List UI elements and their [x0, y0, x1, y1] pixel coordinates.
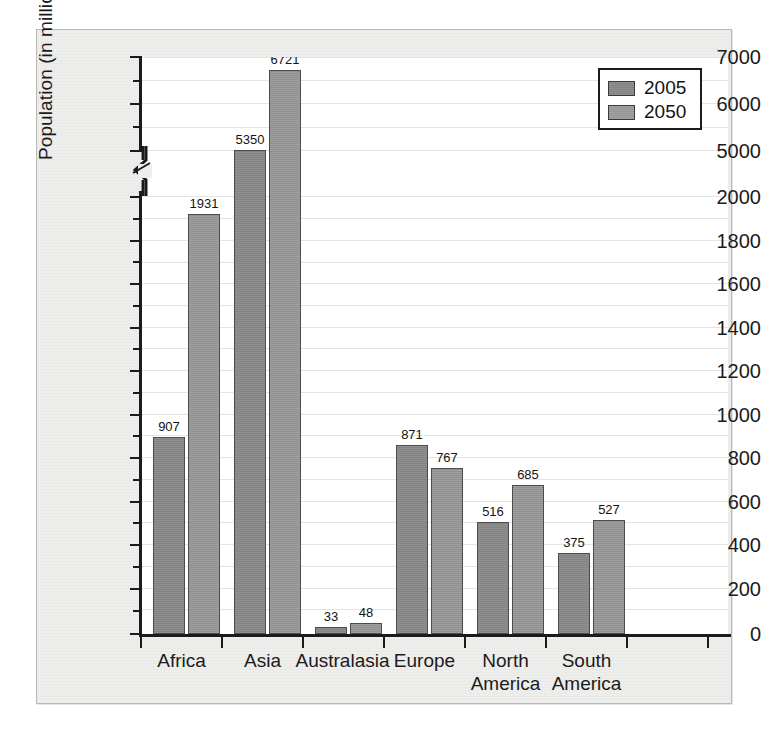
y-tick-7000	[130, 56, 142, 58]
y-tick-1900	[133, 218, 142, 220]
y-tick-label-200: 200	[669, 578, 761, 601]
x-category-label-south-america-line2: America	[546, 672, 627, 695]
bar-value-europe-2050: 767	[421, 450, 473, 465]
y-tick-1800	[130, 240, 142, 242]
x-category-label-australasia: Australasia	[295, 649, 390, 672]
bar-asia-2005[interactable]	[234, 150, 266, 634]
y-tick-label-600: 600	[669, 491, 761, 514]
x-category-label-europe-line1: Europe	[384, 649, 465, 672]
bar-value-asia-2050: 6721	[259, 57, 311, 67]
y-tick-100	[133, 610, 142, 612]
y-tick-label-1400: 1400	[669, 317, 761, 340]
bar-south-america-2005[interactable]	[558, 553, 590, 634]
x-category-label-australasia-line1: Australasia	[295, 649, 390, 672]
x-category-label-south-america-line1: South	[546, 649, 627, 672]
y-tick-1000	[130, 414, 142, 416]
y-tick-300	[133, 566, 142, 568]
x-category-label-north-america-line1: North	[465, 649, 546, 672]
x-axis-spine	[139, 634, 731, 637]
x-category-label-asia-line1: Asia	[222, 649, 303, 672]
gridline	[141, 348, 728, 349]
x-tick-boundary-7	[707, 637, 709, 648]
x-category-label-south-america: South America	[546, 649, 627, 695]
bar-value-europe-2005: 871	[386, 427, 438, 442]
x-category-label-europe: Europe	[384, 649, 465, 672]
y-tick-700	[133, 479, 142, 481]
y-tick-1500	[133, 305, 142, 307]
x-tick-boundary-5	[545, 637, 547, 648]
y-tick-label-1600: 1600	[669, 273, 761, 296]
bar-value-north-america-2050: 685	[502, 467, 554, 482]
chart-figure: Population (in millions) 907	[0, 0, 761, 731]
gridline	[141, 57, 728, 58]
gridline	[141, 283, 728, 284]
gridline	[141, 218, 728, 219]
x-category-label-africa-line1: Africa	[141, 649, 222, 672]
y-tick-1400	[130, 327, 142, 329]
gridline	[141, 240, 728, 241]
x-tick-boundary-6	[626, 637, 628, 648]
y-tick-500	[133, 522, 142, 524]
y-tick-label-6000: 6000	[669, 93, 761, 116]
y-tick-label-1000: 1000	[669, 404, 761, 427]
gridline	[141, 327, 728, 328]
y-tick-label-800: 800	[669, 447, 761, 470]
y-tick-1100	[133, 392, 142, 394]
y-tick-2000	[130, 196, 142, 198]
y-tick-800	[130, 457, 142, 459]
x-tick-boundary-3	[383, 637, 385, 648]
bar-asia-2050[interactable]	[269, 70, 301, 634]
x-tick-boundary-2	[302, 637, 304, 648]
bar-north-america-2005[interactable]	[477, 522, 509, 634]
y-tick-400	[130, 544, 142, 546]
bar-europe-2050[interactable]	[431, 468, 463, 634]
y-tick-5500	[133, 126, 142, 128]
y-tick-1200	[130, 370, 142, 372]
bar-europe-2005[interactable]	[396, 445, 428, 634]
bar-south-america-2050[interactable]	[593, 520, 625, 634]
bar-value-australasia-2050: 48	[340, 605, 392, 620]
gridline	[141, 150, 728, 151]
gridline	[141, 262, 728, 263]
x-category-label-north-america: North America	[465, 649, 546, 695]
axis-break-icon	[130, 146, 154, 196]
y-tick-1700	[133, 261, 142, 263]
bar-australasia-2050[interactable]	[350, 623, 382, 634]
bar-africa-2050[interactable]	[188, 214, 220, 634]
y-tick-900	[133, 435, 142, 437]
y-tick-label-7000: 7000	[669, 46, 761, 69]
y-tick-label-1200: 1200	[669, 360, 761, 383]
bar-north-america-2050[interactable]	[512, 485, 544, 634]
gridline	[141, 392, 728, 393]
legend-swatch-2050	[608, 105, 635, 120]
x-tick-boundary-1	[221, 637, 223, 648]
bar-value-south-america-2050: 527	[583, 502, 635, 517]
y-tick-label-400: 400	[669, 534, 761, 557]
y-tick-label-5000: 5000	[669, 140, 761, 163]
gridline	[141, 414, 728, 415]
x-category-label-north-america-line2: America	[465, 672, 546, 695]
y-tick-1300	[133, 348, 142, 350]
bar-value-africa-2050: 1931	[178, 196, 230, 211]
y-tick-label-2000: 2000	[669, 186, 761, 209]
bar-africa-2005[interactable]	[153, 437, 185, 634]
y-tick-1600	[130, 283, 142, 285]
x-tick-boundary-0	[140, 637, 142, 648]
x-category-label-africa: Africa	[141, 649, 222, 672]
y-tick-label-1800: 1800	[669, 230, 761, 253]
bar-australasia-2005[interactable]	[315, 627, 347, 634]
gridline	[141, 370, 728, 371]
y-tick-200	[130, 588, 142, 590]
legend-swatch-2005	[608, 81, 635, 96]
y-tick-6000	[130, 103, 142, 105]
plot-area: 907 1931 5350 6721 33 48 871 767 516 685…	[141, 57, 728, 634]
y-tick-6500	[133, 80, 142, 82]
y-tick-600	[130, 501, 142, 503]
gridline	[141, 305, 728, 306]
y-axis-title: Population (in millions)	[35, 0, 57, 160]
x-tick-boundary-4	[464, 637, 466, 648]
x-category-label-asia: Asia	[222, 649, 303, 672]
